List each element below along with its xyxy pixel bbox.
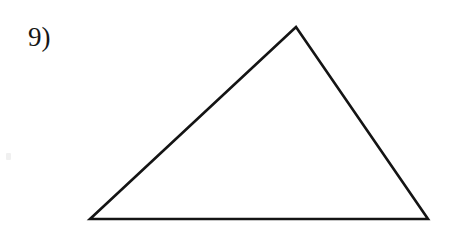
triangle-figure (0, 0, 458, 237)
worksheet-figure: 9) (0, 0, 458, 237)
triangle-outline (90, 27, 428, 219)
